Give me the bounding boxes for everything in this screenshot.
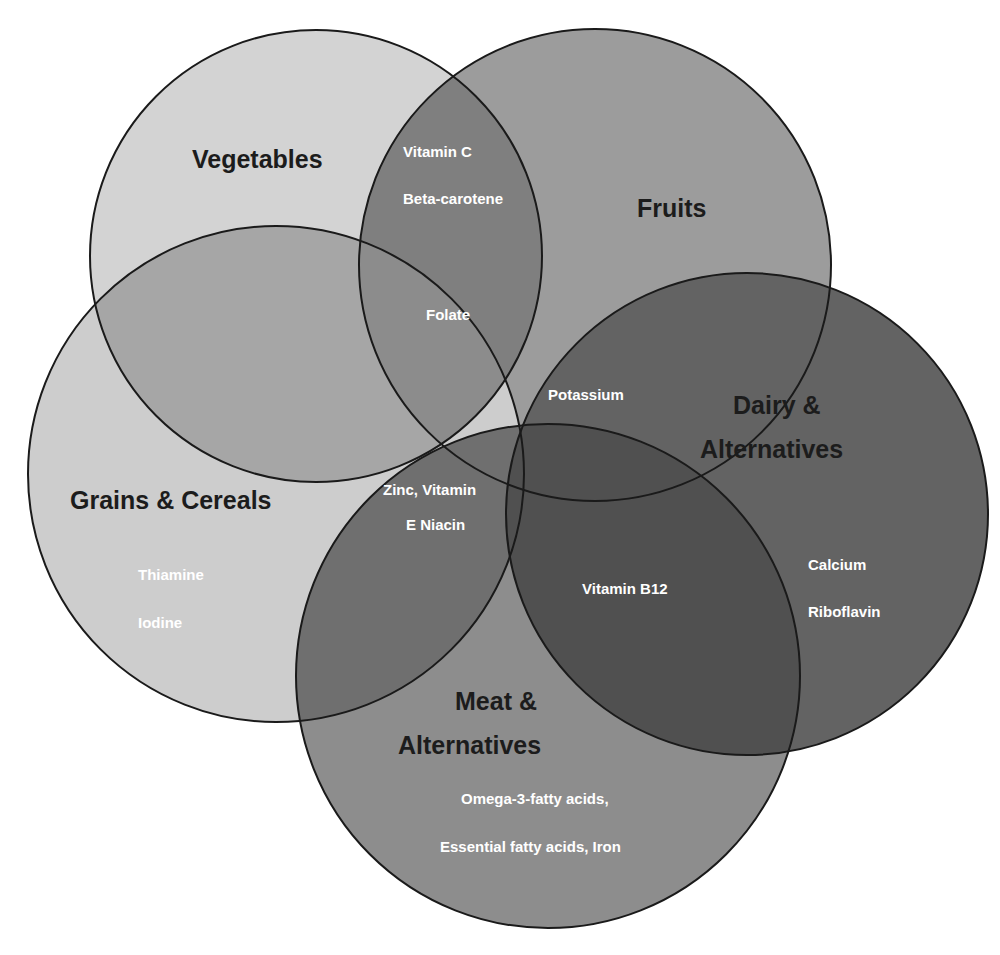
nutrient-zinc-line2: E Niacin — [406, 516, 465, 534]
label-dairy-line2: Alternatives — [700, 434, 843, 464]
label-meat-line1: Meat & — [455, 686, 537, 716]
nutrient-iodine: Iodine — [138, 614, 182, 632]
label-dairy-line1: Dairy & — [733, 390, 821, 420]
nutrient-beta-carotene: Beta-carotene — [403, 190, 503, 208]
nutrient-thiamine: Thiamine — [138, 566, 204, 584]
nutrient-folate: Folate — [426, 306, 470, 324]
nutrient-riboflavin: Riboflavin — [808, 603, 881, 621]
nutrient-vitamin-c: Vitamin C — [403, 143, 472, 161]
nutrient-omega3: Omega-3-fatty acids, — [461, 790, 609, 808]
nutrient-potassium: Potassium — [548, 386, 624, 404]
label-grains: Grains & Cereals — [70, 485, 272, 515]
nutrient-vitamin-b12: Vitamin B12 — [582, 580, 668, 598]
label-fruits: Fruits — [637, 193, 706, 223]
nutrient-zinc-line1: Zinc, Vitamin — [383, 481, 476, 499]
label-meat-line2: Alternatives — [398, 730, 541, 760]
nutrient-calcium: Calcium — [808, 556, 866, 574]
nutrient-essential-fatty-acids: Essential fatty acids, Iron — [440, 838, 621, 856]
label-vegetables: Vegetables — [192, 144, 323, 174]
venn-diagram — [0, 0, 1000, 955]
